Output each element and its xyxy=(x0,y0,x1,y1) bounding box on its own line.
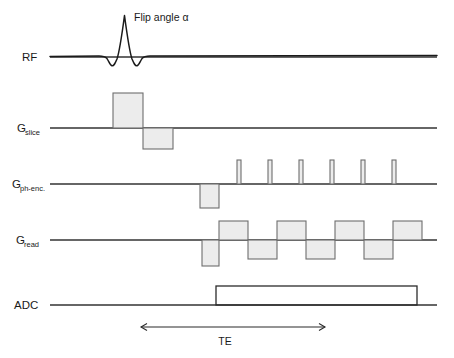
channel-label-rf: RF xyxy=(22,51,37,63)
g-ph-enc-blip xyxy=(330,160,334,184)
pulse-sequence-svg: RF Flip angle α G slice G ph-enc. xyxy=(0,0,454,358)
channel-label-g-read-subscript: read xyxy=(24,240,39,249)
g-ph-enc-blip xyxy=(268,160,272,184)
channel-label-g-slice-subscript: slice xyxy=(25,128,40,137)
channel-adc: ADC xyxy=(14,286,437,311)
g-read-prephase-lobe xyxy=(202,240,219,266)
rf-sinc-pulse xyxy=(50,16,437,66)
te-label: TE xyxy=(218,335,231,347)
channel-g-ph-enc: G ph-enc. xyxy=(12,160,437,208)
te-marker: TE xyxy=(141,324,325,348)
g-read-lobe-positive xyxy=(393,221,422,240)
adc-acquisition-window xyxy=(216,286,417,305)
g-ph-enc-blip xyxy=(299,160,303,184)
g-ph-enc-blip xyxy=(392,160,396,184)
g-ph-enc-prephase-lobe xyxy=(200,184,219,208)
g-ph-enc-blip xyxy=(361,160,365,184)
channel-rf: RF Flip angle α xyxy=(22,11,437,66)
g-read-lobe-positive xyxy=(277,221,306,240)
g-read-lobe-negative xyxy=(248,240,277,259)
g-read-lobe-negative xyxy=(306,240,335,259)
g-read-lobe-positive xyxy=(335,221,364,240)
g-slice-select-lobe xyxy=(113,93,143,128)
channel-g-slice: G slice xyxy=(17,93,437,149)
channel-label-adc: ADC xyxy=(14,299,38,311)
channel-label-g-ph-enc-subscript: ph-enc. xyxy=(20,184,45,193)
channel-g-read: G read xyxy=(16,221,437,266)
pulse-sequence-diagram: RF Flip angle α G slice G ph-enc. xyxy=(0,0,454,358)
g-read-lobe-negative xyxy=(364,240,393,259)
flip-angle-annotation: Flip angle α xyxy=(134,11,189,23)
g-slice-rephase-lobe xyxy=(143,128,173,149)
g-ph-enc-blip xyxy=(237,160,241,184)
g-read-lobe-positive xyxy=(219,221,248,240)
